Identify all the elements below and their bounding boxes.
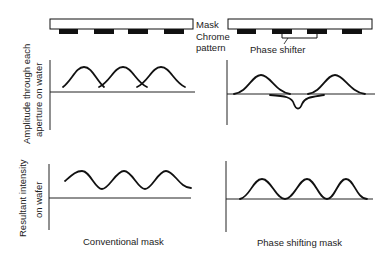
amplitude-peak xyxy=(137,67,185,87)
amplitude-plot-conventional xyxy=(50,60,195,130)
chrome-block xyxy=(307,29,327,34)
chrome-block xyxy=(272,29,292,34)
negative-amplitude-dip xyxy=(270,95,324,109)
conventional-mask xyxy=(50,19,193,34)
mask-plate xyxy=(228,19,372,29)
phase-shift-mask-diagram: Mask Chrome pattern Phase shifter Amplit… xyxy=(0,0,390,261)
amplitude-plot-phase-shift xyxy=(227,60,375,125)
intensity-wave xyxy=(240,179,367,199)
chrome-block xyxy=(59,29,78,34)
chrome-label-line2: pattern xyxy=(196,42,226,53)
intensity-plot-conventional xyxy=(49,164,191,230)
intensity-wave xyxy=(65,171,191,189)
amplitude-peak xyxy=(99,67,147,87)
mask-plate xyxy=(50,19,193,29)
positive-amplitude-peak xyxy=(308,75,365,94)
positive-amplitude-peak xyxy=(234,75,290,94)
chrome-block xyxy=(164,29,184,34)
intensity-plot-phase-shift xyxy=(226,161,373,232)
phase-shifter-layer xyxy=(282,34,317,38)
chrome-block xyxy=(128,29,148,34)
caption-phase-shifting: Phase shifting mask xyxy=(257,237,342,248)
phase-shifter-label: Phase shifter xyxy=(250,44,305,55)
intensity-label-line1: Resultant intensity xyxy=(17,159,28,237)
chrome-block xyxy=(94,29,114,34)
mask-label: Mask xyxy=(196,19,219,30)
amplitude-label-line1: Amplitude through each xyxy=(21,44,32,144)
chrome-block xyxy=(342,29,362,34)
amplitude-label-line2: aperture on water xyxy=(33,63,44,137)
caption-conventional: Conventional mask xyxy=(83,236,164,247)
intensity-label-line2: on wafer xyxy=(33,182,44,218)
chrome-block xyxy=(237,29,256,34)
amplitude-peak xyxy=(63,67,104,87)
chrome-label-line1: Chrome xyxy=(196,31,230,42)
phase-shifting-mask xyxy=(228,19,372,44)
